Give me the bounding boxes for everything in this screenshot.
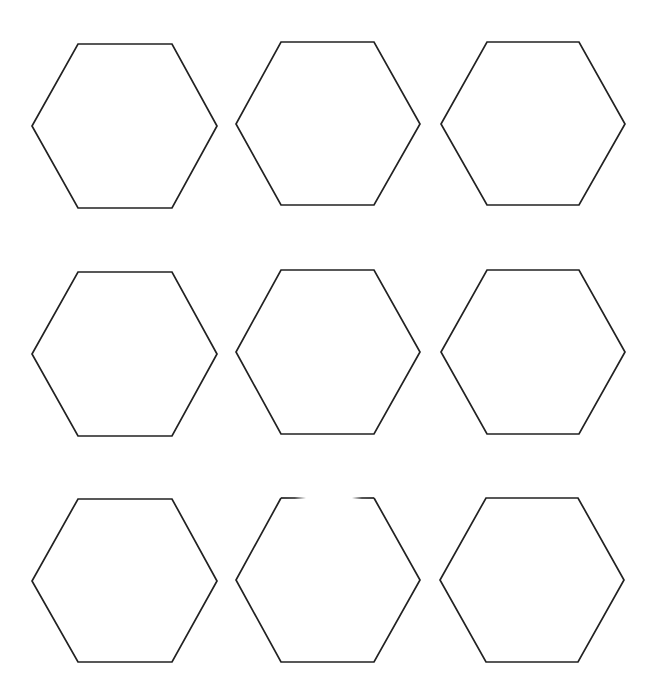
hexagon-grid-canvas	[0, 0, 655, 700]
top-edge-right-fragment	[352, 497, 374, 499]
top-edge-left-fragment	[281, 497, 306, 499]
background	[0, 0, 655, 700]
